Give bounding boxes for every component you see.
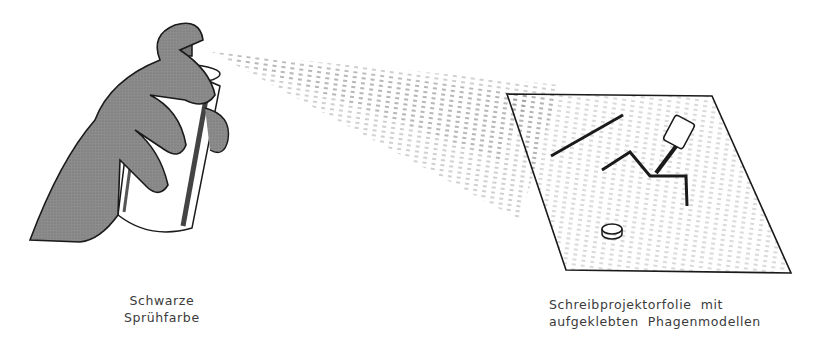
- spray-paint-label-line-1: Schwarze: [124, 292, 200, 309]
- transparency-label-line-1: Schreibprojektorfolie mit: [549, 296, 761, 313]
- transparency-label-line-2: aufgeklebten Phagenmodellen: [549, 313, 761, 330]
- spray-cone: [212, 52, 560, 220]
- transparency-label: Schreibprojektorfolie mitaufgeklebten Ph…: [549, 296, 761, 330]
- spray-paint-label: SchwarzeSprühfarbe: [124, 292, 200, 326]
- spray-paint-label-line-2: Sprühfarbe: [124, 309, 200, 326]
- overhead-transparency-sheet: [507, 94, 791, 273]
